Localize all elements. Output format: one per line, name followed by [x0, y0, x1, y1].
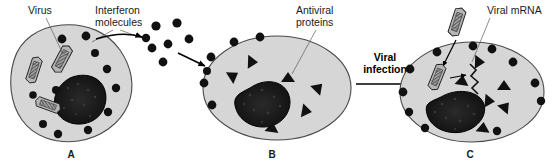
panel-letter-b: B [268, 149, 275, 160]
label-viral-mrna: Viral mRNA [487, 4, 542, 16]
label-virus: Virus [28, 4, 52, 16]
interferon-mechanism-figure: A Virus Interferon molecules [0, 0, 553, 166]
label-interferon-line2: molecules [95, 16, 142, 28]
label-viral-infection-line1: Viral [374, 51, 397, 63]
label-antiviral-line1: Antiviral [296, 4, 333, 16]
label-interferon-line1: Interferon [95, 4, 140, 16]
figure-canvas: A Virus Interferon molecules [0, 0, 553, 166]
panel-letter-c: C [466, 149, 473, 160]
panel-letter-a: A [67, 149, 74, 160]
label-viral-infection-line2: infection [363, 63, 407, 75]
label-antiviral-line2: proteins [296, 16, 333, 28]
